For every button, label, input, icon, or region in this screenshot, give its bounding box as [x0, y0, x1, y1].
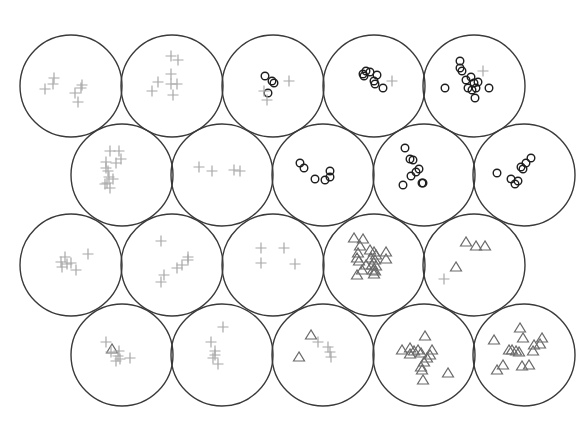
triangle-marker-icon [461, 237, 472, 246]
plus-marker-icon [71, 265, 82, 276]
circle-marker-icon [268, 77, 276, 85]
plus-marker-icon [103, 166, 114, 177]
plus-marker-icon [235, 166, 246, 177]
triangle-marker-icon [306, 330, 317, 339]
circle-marker-icon [527, 154, 535, 162]
map-cell [20, 214, 122, 316]
triangle-marker-icon [524, 360, 535, 369]
map-cell [272, 304, 374, 406]
plus-marker-icon [159, 270, 170, 281]
triangle-marker-icon [489, 335, 500, 344]
triangle-marker-icon [518, 333, 529, 342]
cell-boundary [171, 304, 273, 406]
plus-marker-icon [114, 146, 125, 157]
triangle-marker-icon [451, 262, 462, 271]
map-cell [20, 35, 122, 137]
cell-boundary [373, 124, 475, 226]
plus-marker-icon [183, 255, 194, 266]
cell-boundary [272, 304, 374, 406]
map-cell [171, 304, 273, 406]
plus-marker-icon [166, 69, 177, 80]
plus-marker-icon [168, 90, 179, 101]
plus-marker-icon [284, 76, 295, 87]
plus-marker-icon [259, 86, 270, 97]
plus-marker-icon [114, 346, 125, 357]
plus-marker-icon [77, 80, 88, 91]
plus-marker-icon [326, 352, 337, 363]
plus-marker-icon [172, 79, 183, 90]
plus-marker-icon [101, 337, 112, 348]
map-cell [323, 35, 425, 137]
plus-marker-icon [279, 243, 290, 254]
map-cell [373, 304, 475, 406]
map-cell [323, 214, 425, 316]
map-cell [121, 35, 223, 137]
plus-marker-icon [323, 342, 334, 353]
triangle-marker-icon [537, 333, 548, 342]
cell-map-diagram [0, 0, 588, 428]
plus-marker-icon [256, 243, 267, 254]
cell-boundary [373, 304, 475, 406]
plus-marker-icon [290, 259, 301, 270]
plus-marker-icon [156, 277, 167, 288]
plus-marker-icon [40, 84, 51, 95]
plus-marker-icon [478, 66, 489, 77]
triangle-marker-icon [294, 352, 305, 361]
plus-marker-icon [208, 353, 219, 364]
triangle-marker-icon [443, 368, 454, 377]
plus-marker-icon [325, 347, 336, 358]
circle-marker-icon [471, 94, 479, 102]
map-cell [473, 304, 575, 406]
plus-marker-icon [156, 236, 167, 247]
map-cell [222, 35, 324, 137]
plus-marker-icon [153, 77, 164, 88]
plus-marker-icon [207, 166, 218, 177]
triangle-marker-icon [349, 233, 360, 242]
plus-marker-icon [101, 163, 112, 174]
plus-marker-icon [194, 162, 205, 173]
circle-marker-icon [296, 159, 304, 167]
plus-marker-icon [73, 97, 84, 108]
circle-marker-icon [517, 163, 525, 171]
plus-marker-icon [313, 337, 324, 348]
plus-marker-icon [70, 88, 81, 99]
plus-marker-icon [229, 165, 240, 176]
cell-boundary [272, 124, 374, 226]
map-cell [121, 214, 223, 316]
cell-boundary [171, 124, 273, 226]
triangle-marker-icon [418, 375, 429, 384]
plus-marker-icon [125, 353, 136, 364]
map-cell [423, 35, 525, 137]
map-cell [71, 124, 173, 226]
plus-marker-icon [387, 76, 398, 87]
cell-boundary [71, 304, 173, 406]
plus-marker-icon [218, 322, 229, 333]
circle-marker-icon [493, 169, 501, 177]
map-cell [222, 214, 324, 316]
cell-boundary [20, 35, 122, 137]
cell-boundary [323, 35, 425, 137]
map-cell [473, 124, 575, 226]
triangle-marker-icon [515, 323, 526, 332]
cell-boundary [473, 124, 575, 226]
map-cell [423, 214, 525, 316]
plus-marker-icon [48, 79, 59, 90]
circle-marker-icon [300, 164, 308, 172]
plus-marker-icon [147, 86, 158, 97]
plus-marker-icon [76, 83, 87, 94]
map-cell [272, 124, 374, 226]
cell-map-canvas [0, 0, 588, 428]
cell-boundary [222, 214, 324, 316]
cell-boundary [121, 214, 223, 316]
plus-marker-icon [256, 258, 267, 269]
circle-marker-icon [311, 175, 319, 183]
plus-marker-icon [83, 249, 94, 260]
cell-boundary [423, 214, 525, 316]
map-cell [373, 124, 475, 226]
cell-boundary [121, 35, 223, 137]
circle-marker-icon [261, 72, 269, 80]
triangle-marker-icon [420, 331, 431, 340]
circle-marker-icon [379, 84, 387, 92]
circle-marker-icon [264, 89, 272, 97]
plus-marker-icon [49, 73, 60, 84]
